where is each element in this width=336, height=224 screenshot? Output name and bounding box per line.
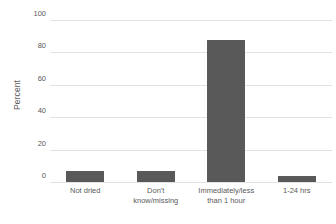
bars-layer xyxy=(50,20,332,182)
x-axis-tick-label-line: Don't xyxy=(147,186,164,195)
bar-slot xyxy=(191,20,262,182)
x-axis-tick-label-line: than 1 hour xyxy=(192,196,261,206)
bar xyxy=(207,40,245,182)
x-axis-tick-label-line: Not dried xyxy=(70,186,100,195)
y-axis-title-text: Percent xyxy=(12,80,22,110)
x-axis-tick-label: Don'tknow/missing xyxy=(121,186,192,206)
bar xyxy=(137,171,175,182)
x-axis-tick-label: 1-24 hrs xyxy=(262,186,333,206)
y-axis-tick-label: 80 xyxy=(24,42,46,50)
plot-area xyxy=(50,20,332,182)
x-axis-tick-label-line: 1-24 hrs xyxy=(283,186,311,195)
y-axis-tick-label: 100 xyxy=(24,10,46,18)
y-axis-tick-label: 20 xyxy=(24,140,46,148)
bar-slot xyxy=(121,20,192,182)
bar-slot xyxy=(50,20,121,182)
y-axis-tick-label: 40 xyxy=(24,107,46,115)
y-axis-tick-labels: 020406080100 xyxy=(24,14,46,182)
x-axis-tick-label-line: Immediately/less xyxy=(198,186,254,195)
x-axis-tick-label: Immediately/lessthan 1 hour xyxy=(191,186,262,206)
bar xyxy=(278,176,316,182)
x-axis-tick-label-line: know/missing xyxy=(122,196,191,206)
y-axis-tick-label: 0 xyxy=(24,172,46,180)
bar xyxy=(66,171,104,182)
x-axis-tick-label: Not dried xyxy=(50,186,121,206)
gridline xyxy=(50,182,332,183)
bar-slot xyxy=(262,20,333,182)
bar-chart: Percent 020406080100 Not driedDon'tknow/… xyxy=(0,0,336,224)
y-axis-tick-label: 60 xyxy=(24,75,46,83)
x-axis-tick-labels: Not driedDon'tknow/missingImmediately/le… xyxy=(50,186,332,206)
